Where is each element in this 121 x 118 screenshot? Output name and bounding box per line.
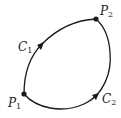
- point-p1: [21, 91, 26, 96]
- label-c1: C1: [18, 40, 32, 55]
- path-diagram: P1 P2 C1 C2: [0, 0, 121, 118]
- label-p2: P2: [99, 4, 113, 19]
- curve-c1: [24, 19, 96, 94]
- label-c2: C2: [102, 92, 116, 107]
- point-p2: [93, 16, 98, 21]
- label-p1: P1: [7, 96, 21, 111]
